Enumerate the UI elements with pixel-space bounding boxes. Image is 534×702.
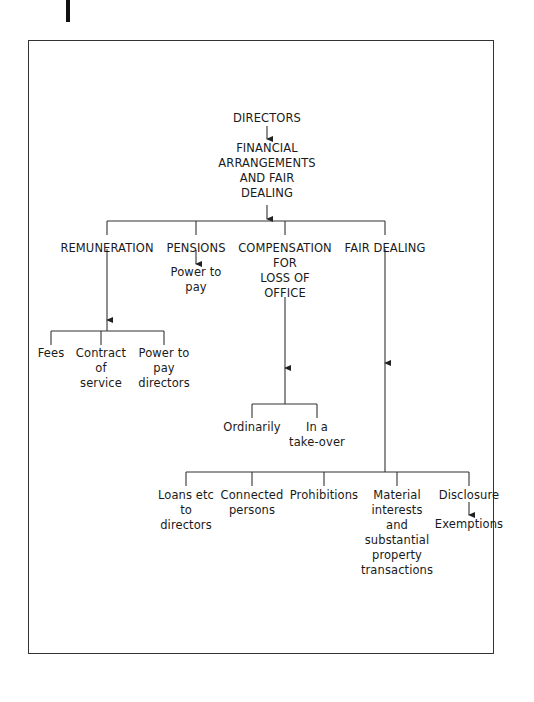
node-exemptions: Exemptions [435, 517, 503, 532]
node-in-a-take-over: In a take-over [289, 420, 345, 450]
node-ordinarily: Ordinarily [223, 420, 280, 435]
node-label-line: Contract [76, 346, 126, 361]
node-label-line: DEALING [218, 186, 315, 201]
node-remuneration: REMUNERATION [60, 241, 153, 256]
node-label-line: service [76, 376, 126, 391]
node-fees: Fees [38, 346, 65, 361]
node-label: FAIR DEALING [345, 241, 426, 255]
node-prohibitions: Prohibitions [290, 488, 358, 503]
node-label-line: pay [138, 361, 190, 376]
node-label-line: OFFICE [238, 286, 332, 301]
node-fair-dealing: FAIR DEALING [345, 241, 426, 256]
node-label-line: pay [171, 280, 222, 295]
node-material-interests: Material interests and substantial prope… [361, 488, 433, 578]
node-label-line: property [361, 548, 433, 563]
node-label-line: Fees [38, 346, 65, 361]
node-compensation: COMPENSATION FOR LOSS OF OFFICE [238, 241, 332, 301]
node-label-line: Exemptions [435, 517, 503, 532]
node-label-line: Material [361, 488, 433, 503]
node-label-line: Power to [171, 265, 222, 280]
node-connected-persons: Connected persons [221, 488, 284, 518]
node-label-line: and [361, 518, 433, 533]
node-label-line: to [158, 503, 214, 518]
node-label-line: ARRANGEMENTS [218, 156, 315, 171]
node-label-line: Power to [138, 346, 190, 361]
node-label: DIRECTORS [233, 111, 301, 125]
node-label-line: Prohibitions [290, 488, 358, 503]
node-label-line: Connected [221, 488, 284, 503]
node-label-line: FOR [238, 256, 332, 271]
node-label-line: directors [158, 518, 214, 533]
node-power-to-pay-directors: Power to pay directors [138, 346, 190, 391]
node-label-line: take-over [289, 435, 345, 450]
node-label-line: AND FAIR [218, 171, 315, 186]
node-disclosure: Disclosure [439, 488, 499, 503]
node-pensions-power-to-pay: Power to pay [171, 265, 222, 295]
node-loans-to-directors: Loans etc to directors [158, 488, 214, 533]
node-directors: DIRECTORS [233, 111, 301, 126]
node-label-line: COMPENSATION [238, 241, 332, 256]
node-label: PENSIONS [166, 241, 225, 255]
node-label-line: persons [221, 503, 284, 518]
node-contract-of-service: Contract of service [76, 346, 126, 391]
node-label-line: FINANCIAL [218, 141, 315, 156]
node-pensions: PENSIONS [166, 241, 225, 256]
node-label-line: Disclosure [439, 488, 499, 503]
node-label: REMUNERATION [60, 241, 153, 255]
node-label-line: LOSS OF [238, 271, 332, 286]
node-label-line: interests [361, 503, 433, 518]
node-label-line: of [76, 361, 126, 376]
node-label-line: transactions [361, 563, 433, 578]
node-label-line: Loans etc [158, 488, 214, 503]
node-financial-arrangements: FINANCIAL ARRANGEMENTS AND FAIR DEALING [218, 141, 315, 201]
node-label-line: Ordinarily [223, 420, 280, 435]
node-label-line: substantial [361, 533, 433, 548]
node-label-line: directors [138, 376, 190, 391]
node-label-line: In a [289, 420, 345, 435]
